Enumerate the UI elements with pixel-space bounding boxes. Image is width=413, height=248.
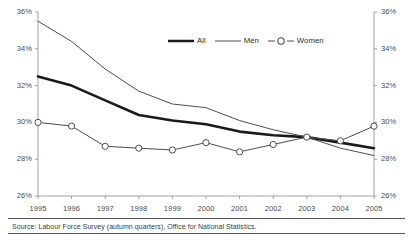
series-marker-women	[169, 147, 175, 153]
legend-label-all: All	[197, 37, 206, 45]
y-axis-tick-label-right: 28%	[381, 154, 407, 163]
y-axis-tick-label-right: 30%	[381, 117, 407, 126]
y-axis-tick-label-left: 36%	[6, 7, 32, 16]
legend-item-women: Women	[268, 36, 324, 46]
legend-label-men: Men	[244, 37, 259, 45]
legend-swatch-women-icon	[268, 36, 294, 46]
x-axis-tick-label: 2000	[189, 204, 223, 213]
x-axis-tick-label: 2004	[323, 204, 357, 213]
series-line-women	[38, 122, 374, 151]
series-marker-women	[337, 138, 343, 144]
y-axis-tick-label-left: 34%	[6, 44, 32, 53]
series-marker-women	[237, 149, 243, 155]
legend-label-women: Women	[297, 37, 324, 45]
series-line-all	[38, 76, 374, 148]
x-axis-tick-label: 1997	[88, 204, 122, 213]
x-axis-tick-label: 1999	[155, 204, 189, 213]
x-axis-tick-label: 2003	[290, 204, 324, 213]
y-axis-tick-label-left: 28%	[6, 154, 32, 163]
y-axis-tick-label-left: 30%	[6, 117, 32, 126]
x-axis-tick-label: 2005	[357, 204, 391, 213]
legend-item-all: All	[168, 36, 206, 46]
series-marker-women	[69, 123, 75, 129]
y-axis-tick-label-right: 34%	[381, 44, 407, 53]
chart-legend: AllMenWomen	[168, 34, 324, 48]
series-marker-women	[203, 140, 209, 146]
x-axis-tick-label: 1995	[21, 204, 55, 213]
y-axis-tick-label-left: 26%	[6, 191, 32, 200]
series-marker-women	[304, 134, 310, 140]
x-axis-tick-label: 2002	[256, 204, 290, 213]
y-axis-tick-label-left: 32%	[6, 81, 32, 90]
legend-item-men: Men	[215, 36, 259, 46]
x-axis-tick-label: 1998	[122, 204, 156, 213]
legend-swatch-all-icon	[168, 36, 194, 46]
series-marker-women	[270, 141, 276, 147]
series-marker-women	[102, 143, 108, 149]
source-footer: Source: Labour Force Survey (autumn quar…	[8, 218, 405, 234]
x-axis-tick-label: 2001	[223, 204, 257, 213]
line-chart: 26%28%30%32%34%36% 26%28%30%32%34%36% 19…	[0, 0, 413, 248]
y-axis-tick-label-right: 32%	[381, 81, 407, 90]
legend-swatch-men-icon	[215, 36, 241, 46]
source-text: Source: Labour Force Survey (autumn quar…	[8, 219, 405, 233]
series-marker-women	[35, 119, 41, 125]
y-axis-tick-label-right: 36%	[381, 7, 407, 16]
series-marker-women	[136, 145, 142, 151]
series-marker-women	[371, 123, 377, 129]
source-rule-bottom	[8, 233, 405, 234]
x-axis-tick-label: 1996	[55, 204, 89, 213]
y-axis-tick-label-right: 26%	[381, 191, 407, 200]
